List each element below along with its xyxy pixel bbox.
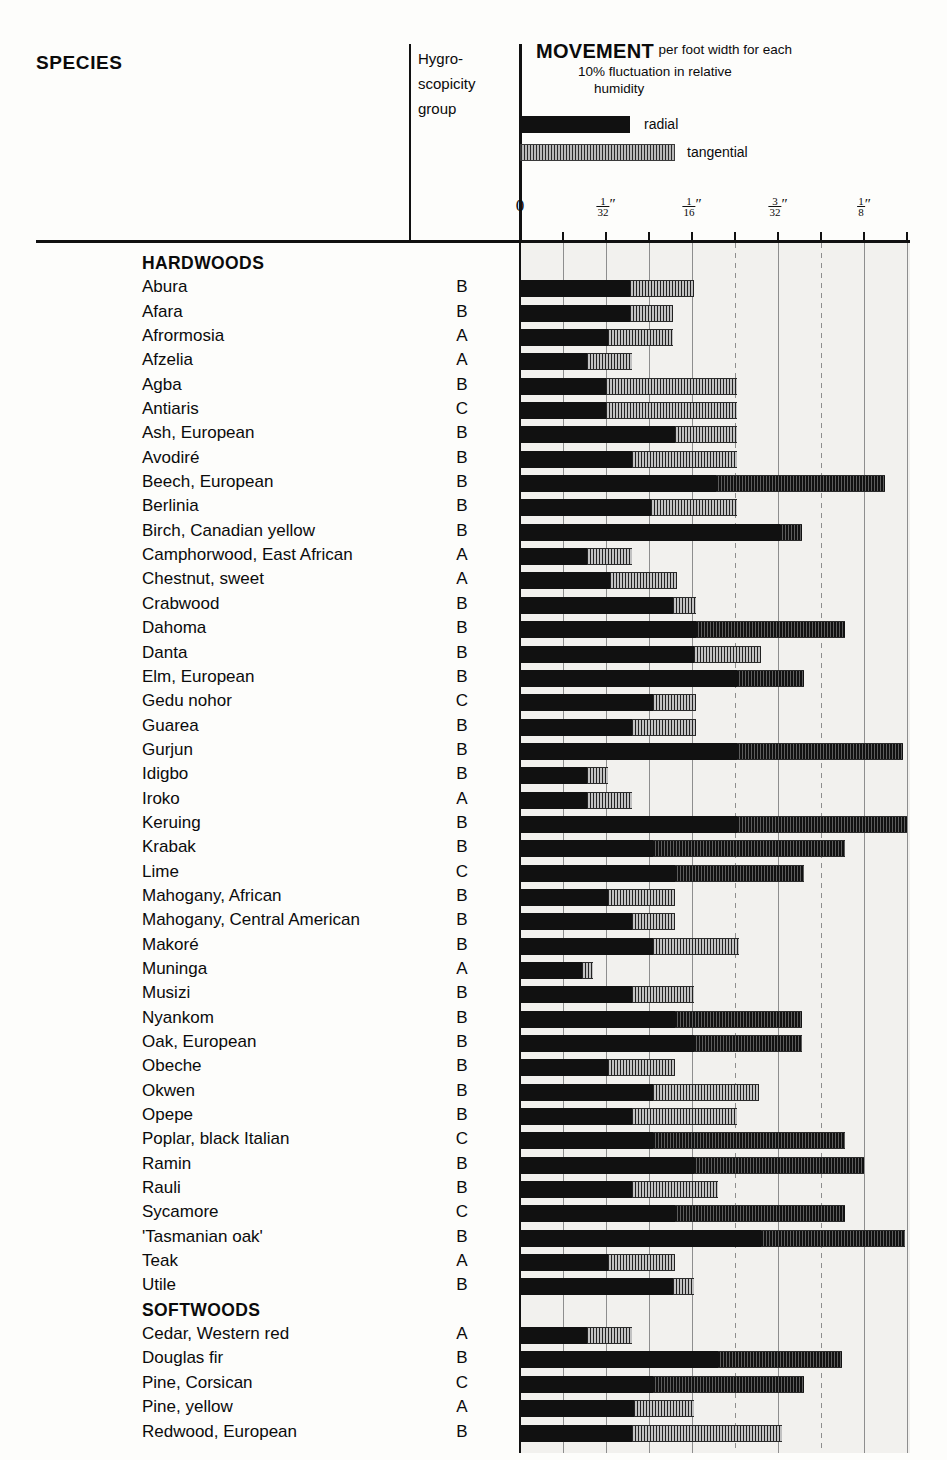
radial-bar-segment xyxy=(520,499,651,516)
species-name: Opepe xyxy=(142,1105,193,1125)
radial-bar-segment xyxy=(520,1059,608,1076)
hygroscopicity-group-value: A xyxy=(452,1324,472,1344)
hygroscopicity-group-value: B xyxy=(452,448,472,468)
species-name: Camphorwood, East African xyxy=(142,545,353,565)
tangential-bar-segment xyxy=(632,1425,783,1442)
species-name: Ash, European xyxy=(142,423,254,443)
species-name: Dahoma xyxy=(142,618,206,638)
species-name: Teak xyxy=(142,1251,178,1271)
axis-tick-label: 332″ xyxy=(768,196,787,217)
hygroscopicity-group-value: B xyxy=(452,910,472,930)
hygroscopicity-group-value: A xyxy=(452,1397,472,1417)
species-row: AvodiréB xyxy=(0,447,947,471)
species-name: Krabak xyxy=(142,837,196,857)
axis-tick-label: 116″ xyxy=(682,196,701,217)
species-name: Cedar, Western red xyxy=(142,1324,289,1344)
movement-header: MOVEMENT per foot width for each 10% flu… xyxy=(536,40,936,97)
species-row: Douglas firB xyxy=(0,1347,947,1371)
hygroscopicity-group-value: B xyxy=(452,1227,472,1247)
species-row: Beech, EuropeanB xyxy=(0,471,947,495)
species-row: AgbaB xyxy=(0,374,947,398)
species-name: Guarea xyxy=(142,716,199,736)
species-name: Pine, yellow xyxy=(142,1397,233,1417)
group-heading-row: SOFTWOODS xyxy=(0,1299,947,1323)
hygroscopicity-group-value: B xyxy=(452,1081,472,1101)
radial-bar-segment xyxy=(520,1011,675,1028)
species-name: Afara xyxy=(142,302,183,322)
radial-bar-segment xyxy=(520,1035,694,1052)
species-row: Pine, yellowA xyxy=(0,1396,947,1420)
axis-tick-labels: 0132″116″332″18″ xyxy=(0,196,947,226)
species-name: Makoré xyxy=(142,935,199,955)
hygroscopicity-group-value: B xyxy=(452,667,472,687)
tangential-bar-segment xyxy=(716,475,886,492)
species-row: IrokoA xyxy=(0,788,947,812)
species-name: Okwen xyxy=(142,1081,195,1101)
species-row: Redwood, EuropeanB xyxy=(0,1421,947,1445)
tangential-bar-segment xyxy=(653,938,739,955)
tangential-bar-segment xyxy=(608,1254,675,1271)
species-row: AfrormosiaA xyxy=(0,325,947,349)
species-row: Mahogany, Central AmericanB xyxy=(0,909,947,933)
hygroscopicity-group-value: B xyxy=(452,1348,472,1368)
tangential-bar-segment xyxy=(675,865,804,882)
radial-bar-segment xyxy=(520,865,675,882)
radial-bar-segment xyxy=(520,743,737,760)
hygroscopicity-group-value: C xyxy=(452,1373,472,1393)
hygroscopicity-group-value: C xyxy=(452,399,472,419)
group-heading-row: HARDWOODS xyxy=(0,252,947,276)
radial-bar-segment xyxy=(520,694,653,711)
species-name: Gurjun xyxy=(142,740,193,760)
species-row: OkwenB xyxy=(0,1080,947,1104)
hygroscopicity-group-value: B xyxy=(452,1008,472,1028)
species-row: Ash, EuropeanB xyxy=(0,422,947,446)
radial-bar-segment xyxy=(520,597,673,614)
radial-bar-segment xyxy=(520,402,606,419)
species-column-header: SPECIES xyxy=(36,52,123,74)
axis-tick xyxy=(906,232,908,241)
axis-tick xyxy=(734,232,736,241)
hygroscopicity-group-value: B xyxy=(452,1154,472,1174)
species-name: Antiaris xyxy=(142,399,199,419)
species-row: RauliB xyxy=(0,1177,947,1201)
hygroscopicity-group-value: B xyxy=(452,983,472,1003)
species-row: DahomaB xyxy=(0,617,947,641)
radial-bar-segment xyxy=(520,816,737,833)
tangential-bar-segment xyxy=(780,524,802,541)
species-row: Elm, EuropeanB xyxy=(0,666,947,690)
species-name: Musizi xyxy=(142,983,190,1003)
species-row: SycamoreC xyxy=(0,1201,947,1225)
tangential-bar-segment xyxy=(606,402,737,419)
tangential-bar-segment xyxy=(632,719,697,736)
radial-bar-segment xyxy=(520,475,716,492)
movement-title: MOVEMENT xyxy=(536,40,654,62)
radial-bar-segment xyxy=(520,572,610,589)
species-name: Douglas fir xyxy=(142,1348,223,1368)
radial-bar-segment xyxy=(520,1181,632,1198)
radial-bar-segment xyxy=(520,305,630,322)
tangential-bar-segment xyxy=(675,1205,845,1222)
species-row: Oak, EuropeanB xyxy=(0,1031,947,1055)
species-row: Camphorwood, East AfricanA xyxy=(0,544,947,568)
radial-bar-segment xyxy=(520,426,675,443)
species-name: Gedu nohor xyxy=(142,691,232,711)
hygroscopicity-group-value: B xyxy=(452,1105,472,1125)
tangential-bar-segment xyxy=(651,499,737,516)
species-row: LimeC xyxy=(0,861,947,885)
tangential-bar-segment xyxy=(653,1084,758,1101)
hygroscopicity-group-value: B xyxy=(452,1032,472,1052)
tangential-bar-segment xyxy=(608,889,675,906)
species-name: Obeche xyxy=(142,1056,202,1076)
species-row: Cedar, Western redA xyxy=(0,1323,947,1347)
radial-bar-segment xyxy=(520,621,696,638)
radial-bar-segment xyxy=(520,719,632,736)
hygroscopicity-group-value: B xyxy=(452,1056,472,1076)
species-row: TeakA xyxy=(0,1250,947,1274)
species-row: UtileB xyxy=(0,1274,947,1298)
hygroscopicity-group-value: A xyxy=(452,1251,472,1271)
radial-bar-segment xyxy=(520,913,632,930)
axis-tick xyxy=(519,232,521,241)
tangential-bar-segment xyxy=(632,1181,718,1198)
hygroscopicity-group-value: A xyxy=(452,545,472,565)
species-name: Afzelia xyxy=(142,350,193,370)
